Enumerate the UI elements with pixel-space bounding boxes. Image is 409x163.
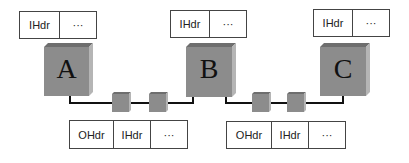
router-2 (149, 92, 168, 112)
packet-inner-header: IHdr (113, 121, 150, 148)
packet-payload: ··· (308, 122, 345, 148)
router-1 (112, 92, 131, 112)
packet-inner-header: IHdr (20, 12, 59, 38)
packet-on-link-a-b: OHdr IHdr ··· (69, 120, 188, 149)
host-a-label: A (44, 53, 89, 85)
packet-inner-header: IHdr (171, 11, 209, 37)
packet-inner-header: IHdr (271, 122, 308, 148)
router-3 (252, 92, 271, 112)
router-4 (287, 92, 306, 112)
packet-at-host-a: IHdr ··· (19, 11, 97, 39)
packet-outer-header: OHdr (227, 122, 271, 148)
packet-payload: ··· (150, 121, 187, 148)
packet-at-host-b: IHdr ··· (170, 10, 247, 38)
packet-on-link-b-c: OHdr IHdr ··· (226, 121, 346, 149)
host-c-label: C (320, 53, 366, 85)
packet-payload: ··· (59, 12, 96, 38)
packet-payload: ··· (352, 10, 389, 36)
packet-outer-header: OHdr (70, 121, 113, 148)
packet-inner-header: IHdr (314, 10, 352, 36)
host-b-label: B (186, 53, 232, 85)
tunneling-diagram: A B C IHdr ··· IHdr ··· IHdr ··· OHdr IH… (0, 0, 409, 163)
packet-payload: ··· (209, 11, 246, 37)
packet-at-host-c: IHdr ··· (313, 9, 390, 37)
